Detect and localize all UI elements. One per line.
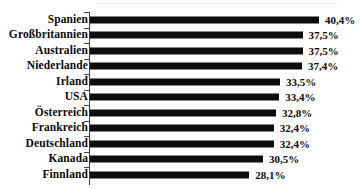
bar-row: Niederlande37,4%: [0, 59, 361, 75]
category-label: Spanien: [48, 14, 88, 26]
bar: [90, 140, 274, 147]
value-label: 33,4%: [285, 92, 315, 103]
bar-row: Kanada30,5%: [0, 152, 361, 168]
value-label: 37,4%: [308, 61, 338, 72]
category-label: Frankreich: [32, 123, 88, 135]
bar: [90, 47, 303, 54]
bar-row: Spanien40,4%: [0, 12, 361, 28]
bar: [90, 32, 303, 39]
bar-row: Finnland28,1%: [0, 167, 361, 183]
bar-row: USA33,4%: [0, 90, 361, 106]
bar: [90, 156, 263, 163]
bar: [90, 125, 274, 132]
bar: [90, 94, 279, 101]
value-label: 30,5%: [269, 154, 299, 165]
value-label: 37,5%: [309, 30, 339, 41]
bar: [90, 109, 276, 116]
plot-area: Spanien40,4%Großbritannien37,5%Australie…: [0, 0, 361, 189]
category-label: Großbritannien: [9, 30, 88, 42]
bar-row: Österreich32,8%: [0, 105, 361, 121]
value-label: 33,5%: [286, 76, 316, 87]
bar-chart: Spanien40,4%Großbritannien37,5%Australie…: [0, 0, 361, 189]
bar-row: Australien37,5%: [0, 43, 361, 59]
category-label: Irland: [56, 76, 88, 88]
category-label: Finnland: [42, 169, 88, 181]
bar-row: Großbritannien37,5%: [0, 28, 361, 44]
category-label: USA: [65, 92, 88, 104]
value-label: 37,5%: [309, 45, 339, 56]
category-label: Deutschland: [26, 138, 88, 150]
value-label: 40,4%: [325, 14, 355, 25]
value-label: 28,1%: [255, 169, 285, 180]
category-label: Österreich: [35, 107, 88, 119]
bar: [90, 16, 319, 23]
value-label: 32,4%: [280, 123, 310, 134]
bar: [90, 63, 302, 70]
value-label: 32,4%: [280, 138, 310, 149]
category-label: Kanada: [48, 154, 88, 166]
bar-row: Irland33,5%: [0, 74, 361, 90]
value-label: 32,8%: [282, 107, 312, 118]
bar-row: Deutschland32,4%: [0, 136, 361, 152]
bar: [90, 171, 249, 178]
category-label: Niederlande: [27, 61, 88, 73]
bar: [90, 78, 280, 85]
bar-row: Frankreich32,4%: [0, 121, 361, 137]
category-label: Australien: [35, 45, 88, 57]
